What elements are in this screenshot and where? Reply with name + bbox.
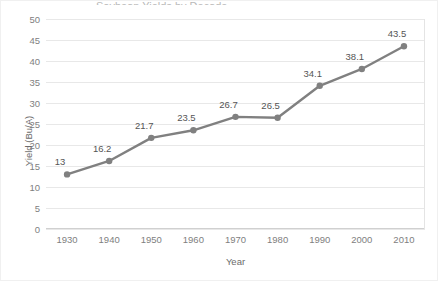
x-axis-tick-label: 1970: [225, 234, 246, 245]
data-point-marker: [190, 127, 196, 133]
gridline: [46, 229, 425, 230]
x-axis-tick-label: 1980: [267, 234, 288, 245]
x-axis-tick-label: 2010: [393, 234, 414, 245]
x-axis-tick-label: 1990: [309, 234, 330, 245]
x-axis-tick-label: 1960: [183, 234, 204, 245]
chart-container: Soybean Yields by Decade Yield (Bu/A) 05…: [0, 0, 438, 281]
x-axis-tick-label: 1930: [56, 234, 77, 245]
data-point-marker: [274, 115, 280, 121]
y-axis-tick-label: 25: [29, 119, 40, 130]
x-axis-title: Year: [46, 256, 425, 267]
x-axis-tick-label: 2000: [351, 234, 372, 245]
data-point-marker: [232, 114, 238, 120]
y-axis-tick-label: 40: [29, 56, 40, 67]
series-line-yield: [46, 19, 425, 229]
data-point-marker: [359, 66, 365, 72]
y-axis-tick-label: 0: [35, 224, 40, 235]
x-axis-tick-label: 1950: [141, 234, 162, 245]
chart-title-cutoff: Soybean Yields by Decade: [96, 1, 306, 5]
data-point-marker: [401, 43, 407, 49]
x-axis-tick-label: 1940: [99, 234, 120, 245]
plot-area: 05101520253035404550 1930194019501960197…: [46, 19, 425, 229]
data-point-marker: [64, 171, 70, 177]
y-axis-tick-label: 45: [29, 35, 40, 46]
y-axis-tick-label: 20: [29, 140, 40, 151]
data-point-marker: [106, 158, 112, 164]
y-axis-tick-label: 50: [29, 14, 40, 25]
data-point-marker: [317, 83, 323, 89]
y-axis-tick-label: 10: [29, 182, 40, 193]
y-axis-tick-label: 15: [29, 161, 40, 172]
y-axis-tick-label: 5: [35, 203, 40, 214]
y-axis-tick-label: 30: [29, 98, 40, 109]
data-point-marker: [148, 135, 154, 141]
y-axis-tick-label: 35: [29, 77, 40, 88]
